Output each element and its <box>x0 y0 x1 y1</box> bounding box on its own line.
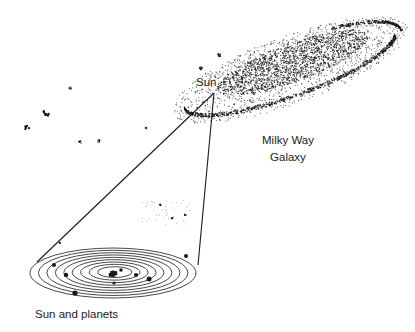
galaxy-star <box>290 69 291 70</box>
galaxy-star <box>228 65 229 66</box>
field-star <box>70 88 71 89</box>
galaxy-arm-star <box>346 76 347 77</box>
galaxy-core-star <box>318 39 319 40</box>
galaxy-star <box>393 35 394 36</box>
galaxy-core-star <box>348 53 349 54</box>
galaxy-star <box>222 73 223 74</box>
galaxy-star <box>282 94 283 95</box>
galaxy-core-star <box>249 66 250 67</box>
galaxy-star <box>387 25 388 26</box>
galaxy-star <box>328 55 329 56</box>
galaxy-core-star <box>234 89 235 90</box>
galaxy-core-star <box>255 75 256 76</box>
galaxy-core-star <box>263 88 264 89</box>
galaxy-core-star <box>329 33 330 34</box>
galaxy-core-star <box>316 54 317 55</box>
galaxy-core-star <box>302 52 303 53</box>
galaxy-star <box>228 117 229 118</box>
galaxy-core-star <box>289 59 290 60</box>
galaxy-core-star <box>292 47 293 48</box>
galaxy-star <box>279 92 280 93</box>
galaxy-star <box>402 30 403 31</box>
galaxy-arm-star <box>364 23 365 24</box>
galaxy-core-star <box>294 81 295 82</box>
galaxy-star <box>225 70 226 71</box>
galaxy-arm-star <box>323 83 324 84</box>
galaxy-star <box>296 82 297 83</box>
galaxy-star <box>254 88 255 89</box>
galaxy-core-star <box>277 63 278 64</box>
galaxy-core-star <box>286 65 287 66</box>
galaxy-core-star <box>335 45 336 46</box>
galaxy-core-star <box>267 69 268 70</box>
galaxy-core-star <box>247 93 248 94</box>
galaxy-star <box>267 58 268 59</box>
galaxy-star <box>216 120 217 121</box>
galaxy-star <box>277 77 278 78</box>
galaxy-star <box>389 26 390 27</box>
galaxy-star <box>299 66 300 67</box>
galaxy-core-star <box>287 47 288 48</box>
galaxy-core-star <box>366 39 367 40</box>
galaxy-core-star <box>349 34 350 35</box>
galaxy-star <box>241 105 242 106</box>
galaxy-core-star <box>255 72 256 73</box>
galaxy-arm-star <box>349 25 350 26</box>
galaxy-star <box>278 43 279 44</box>
galaxy-star <box>362 20 363 21</box>
galaxy-star <box>292 42 293 43</box>
galaxy-star <box>354 64 355 65</box>
galaxy-core-star <box>266 62 267 63</box>
galaxy-star <box>401 33 402 34</box>
galaxy-core-star <box>303 51 304 52</box>
galaxy-core-star <box>244 91 245 92</box>
galaxy-core-star <box>239 85 240 86</box>
galaxy-core-star <box>306 47 307 48</box>
galaxy-star <box>377 43 378 44</box>
galaxy-star <box>244 54 245 55</box>
galaxy-star <box>317 32 318 33</box>
galaxy-label-line1: Milky Way <box>262 132 314 149</box>
galaxy-core-star <box>304 44 305 45</box>
galaxy-arm-star <box>394 38 395 39</box>
galaxy-arm-star <box>386 20 387 21</box>
galaxy-arm-star <box>249 109 250 110</box>
galaxy-core-star <box>253 77 254 78</box>
galaxy-star <box>385 18 386 19</box>
galaxy-arm-star <box>381 50 382 51</box>
galaxy-core-star <box>272 67 273 68</box>
galaxy-core-star <box>278 69 279 70</box>
galaxy-core-star <box>295 51 296 52</box>
galaxy-star <box>235 98 236 99</box>
galaxy-core-star <box>327 53 328 54</box>
galaxy-core-star <box>355 38 356 39</box>
galaxy-star <box>294 39 295 40</box>
galaxy-star <box>407 27 408 28</box>
galaxy-arm-star <box>342 25 343 26</box>
galaxy-core-star <box>276 62 277 63</box>
galaxy-core-star <box>250 82 251 83</box>
galaxy-core-star <box>253 59 254 60</box>
galaxy-arm-star <box>389 46 390 47</box>
galaxy-core-star <box>325 51 326 52</box>
galaxy-arm-star <box>237 110 238 111</box>
galaxy-core-star <box>252 74 253 75</box>
galaxy-core-star <box>287 61 288 62</box>
galaxy-star <box>248 84 249 85</box>
galaxy-core-star <box>257 68 258 69</box>
galaxy-core-star <box>307 56 308 57</box>
galaxy-star <box>220 75 221 76</box>
galaxy-star <box>380 29 381 30</box>
galaxy-core-star <box>230 89 231 90</box>
galaxy-core-star <box>333 58 334 59</box>
galaxy-core-star <box>274 53 275 54</box>
galaxy-arm-star <box>276 103 277 104</box>
solar-system-label: Sun and planets <box>35 308 118 320</box>
galaxy-core-star <box>294 59 295 60</box>
galaxy-star <box>284 44 285 45</box>
planet <box>64 273 68 277</box>
galaxy-core-star <box>302 61 303 62</box>
galaxy-core-star <box>284 58 285 59</box>
galaxy-core-star <box>329 43 330 44</box>
galaxy-arm-star <box>258 105 259 106</box>
